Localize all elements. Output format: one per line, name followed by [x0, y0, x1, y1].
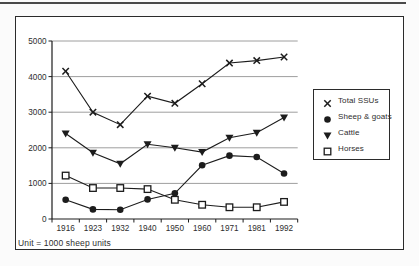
x-tick-label: 1960 [193, 224, 212, 233]
x-tick-label: 1940 [138, 224, 157, 233]
legend-box: Total SSUs Sheep & goats Cattle Horses [313, 89, 390, 160]
legend-item-horses: Horses [321, 143, 387, 154]
unit-note: Unit = 1000 sheep units [18, 238, 111, 248]
filled-circle-marker-icon [321, 111, 334, 122]
x-tick-label: 1932 [111, 224, 130, 233]
y-tick-label: 3000 [28, 108, 47, 117]
figure-scan: 0100020003000400050001916192319321940195… [0, 0, 419, 266]
legend-label-horses: Horses [338, 144, 364, 153]
y-tick-label: 4000 [28, 73, 47, 82]
x-tick-label: 1923 [84, 224, 103, 233]
legend-item-sheep-goats: Sheep & goats [321, 111, 387, 122]
y-tick-label: 0 [42, 215, 47, 224]
x-tick-label: 1971 [220, 224, 239, 233]
x-tick-label: 1916 [57, 224, 76, 233]
y-tick-label: 2000 [28, 144, 47, 153]
legend-label-sheep-goats: Sheep & goats [338, 112, 392, 121]
legend-item-cattle: Cattle [321, 127, 387, 138]
series-cattle [62, 115, 288, 168]
legend-item-total-ssus: Total SSUs [321, 95, 387, 106]
legend-label-cattle: Cattle [338, 128, 360, 137]
legend-label-total-ssus: Total SSUs [338, 96, 379, 105]
x-tick-label: 1981 [248, 224, 267, 233]
triangle-down-marker-icon [321, 127, 334, 138]
series-total-ssus [62, 54, 287, 128]
x-marker-icon [321, 95, 334, 106]
x-tick-label: 1992 [275, 224, 294, 233]
x-tick-label: 1950 [166, 224, 185, 233]
y-tick-label: 1000 [28, 179, 47, 188]
y-tick-label: 5000 [28, 37, 47, 46]
open-square-marker-icon [321, 143, 334, 154]
